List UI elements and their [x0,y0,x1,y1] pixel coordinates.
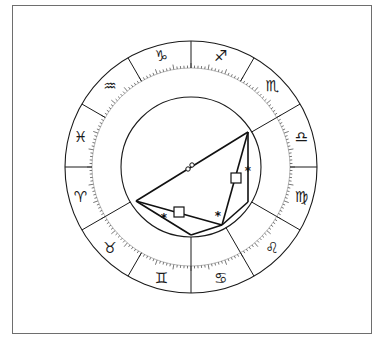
degree-tick [243,81,244,83]
degree-tick [92,146,94,147]
degree-tick [234,256,235,258]
degree-tick [260,94,262,96]
degree-tick [288,188,290,189]
degree-tick [137,81,138,83]
degree-tick [222,70,223,72]
degree-tick [107,110,109,111]
degree-tick [287,191,289,192]
degree-tick [101,213,103,214]
degree-tick [93,131,98,133]
opposition-aspect-icon [186,167,190,171]
degree-tick [139,253,142,257]
sign-glyph-cancer-icon: ♋︎ [214,269,227,287]
degree-tick [97,204,99,205]
sign-glyph-leo-icon: ♌︎ [265,239,278,257]
sign-glyph-capricorn-icon: ♑︎ [155,47,168,65]
house-line [252,118,277,133]
degree-tick [215,263,216,265]
sign-glyph-scorpio-icon: ♏︎ [265,77,279,95]
degree-tick [273,110,275,111]
degree-tick [228,259,229,261]
square-aspect-icon [231,173,241,183]
degree-tick [286,194,288,195]
degree-tick [231,257,232,259]
degree-tick [284,131,289,133]
degree-tick [139,77,142,81]
sign-glyph-aries-icon: ♈︎ [74,188,87,206]
degree-tick [124,87,127,91]
degree-tick [234,76,235,78]
degree-tick [249,247,250,249]
degree-tick [215,69,216,71]
degree-tick [228,73,229,75]
degree-tick [288,184,293,185]
house-line [252,202,277,217]
degree-tick [109,107,111,108]
degree-tick [265,233,267,235]
degree-tick [281,126,283,127]
degree-tick [280,123,282,124]
zodiac-wheel: ♑︎♐︎♏︎♎︎♍︎♌︎♋︎♊︎♉︎♈︎♓︎♒︎ *** [0,0,382,343]
degree-tick [120,94,122,96]
degree-tick [111,231,115,234]
degree-tick [111,100,115,103]
degree-tick [143,254,144,256]
degree-tick [249,85,250,87]
degree-tick [212,264,213,266]
degree-tick [269,105,271,107]
degree-tick [163,69,164,71]
aspect-glyphs: *** [161,163,252,225]
degree-tick [101,119,103,120]
degree-tick [97,129,99,130]
degree-tick [287,142,289,143]
degree-tick [123,92,125,94]
degree-tick [89,184,94,185]
degree-tick [137,251,138,253]
degree-tick [160,261,161,263]
degree-tick [93,201,98,203]
degree-tick [237,77,238,79]
degree-tick [150,74,151,76]
degree-tick [231,74,232,76]
square-aspect-icon [174,207,184,217]
degree-tick [98,207,100,208]
degree-tick [170,68,171,70]
degree-tick [243,251,244,253]
degree-tick [98,126,100,127]
degree-tick [218,262,219,264]
degree-tick [147,256,148,258]
degree-tick [278,119,280,120]
degree-tick [93,139,95,140]
degree-tick [255,243,258,247]
degree-tick [116,233,118,235]
degree-tick [285,198,287,199]
degree-tick [118,236,120,238]
degree-tick [255,87,258,91]
sign-glyph-gemini-icon: ♊︎ [155,269,168,287]
degree-tick [285,136,287,137]
degree-tick [153,259,154,261]
sign-glyph-pisces-icon: ♓︎ [74,128,87,146]
degree-tick [143,77,144,79]
sextile-aspect-icon: * [215,209,222,223]
degree-tick [105,219,107,220]
degree-tick [246,249,247,251]
degree-tick [170,264,171,266]
sign-glyph-sagittarius-icon: ♐︎ [214,47,227,65]
degree-tick [265,99,267,101]
degree-tick [89,149,94,150]
degree-tick [280,210,282,211]
sign-glyph-taurus-icon: ♉︎ [103,239,116,257]
degree-tick [129,87,131,89]
degree-tick [129,245,131,247]
degree-tick [166,263,167,265]
house-line [226,228,241,253]
degree-tick [107,222,109,223]
degree-tick [262,236,264,238]
degree-tick [120,238,122,240]
degree-tick [262,96,264,98]
opposition-aspect-icon-part [190,163,194,167]
degree-tick [116,99,118,101]
degree-tick [225,260,227,265]
sextile-aspect-icon: * [161,211,168,225]
